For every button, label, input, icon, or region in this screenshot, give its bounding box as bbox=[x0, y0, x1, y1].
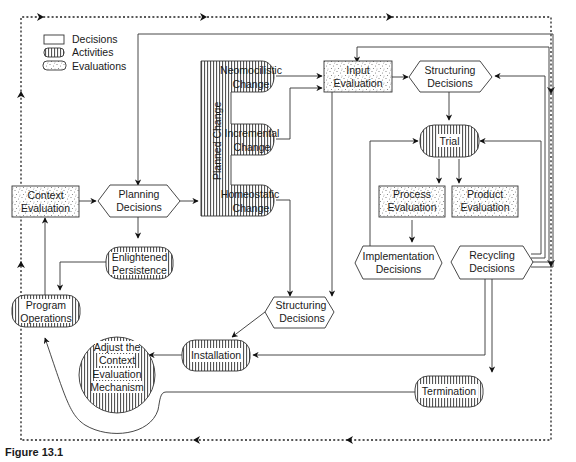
structuring-bottom-label-1: Structuring bbox=[276, 299, 327, 311]
node-structuring-decisions-top[interactable]: Structuring Decisions bbox=[409, 61, 492, 92]
loop-arrow-top-1 bbox=[37, 13, 44, 21]
incremental-label-1: Incremental bbox=[225, 127, 280, 139]
adjust-label-1: Adjust the bbox=[94, 341, 141, 353]
termination-label: Termination bbox=[422, 385, 476, 397]
context-evaluation-label-1: Context bbox=[27, 189, 63, 201]
planning-decisions-label-1: Planning bbox=[119, 188, 160, 200]
planned-change-label: Planned Change bbox=[211, 102, 223, 180]
node-program-operations[interactable]: Program Operations bbox=[12, 295, 80, 327]
loop-arrow-right-1 bbox=[547, 87, 555, 94]
program-operations-label-2: Operations bbox=[20, 312, 71, 324]
loop-arrow-top-3 bbox=[386, 13, 393, 21]
legend-decisions-label: Decisions bbox=[72, 33, 118, 45]
recycling-label-1: Recycling bbox=[469, 249, 515, 261]
input-evaluation-label-1: Input bbox=[346, 64, 369, 76]
adjust-label-4: Mechanism bbox=[90, 381, 144, 393]
loop-arrow-left-1 bbox=[17, 91, 25, 98]
node-input-evaluation[interactable]: Input Evaluation bbox=[324, 61, 392, 92]
enlightened-label-2: Persistence bbox=[112, 264, 167, 276]
node-planning-decisions[interactable]: Planning Decisions bbox=[98, 185, 180, 217]
homeostatic-label-2: Change bbox=[233, 202, 270, 214]
node-enlightened-persistence[interactable]: Enlightened Persistence bbox=[106, 247, 173, 279]
planning-decisions-label-2: Decisions bbox=[116, 201, 162, 213]
structuring-top-label-1: Structuring bbox=[425, 64, 476, 76]
node-process-evaluation[interactable]: Process Evaluation bbox=[379, 186, 445, 217]
legend: Decisions Activities Evaluations bbox=[43, 33, 126, 72]
product-evaluation-label-2: Evaluation bbox=[460, 201, 509, 213]
implementation-label-1: Implementation bbox=[363, 250, 435, 262]
loop-arrow-top-2 bbox=[200, 13, 207, 21]
legend-activities-swatch bbox=[44, 48, 64, 57]
trial-label: Trial bbox=[439, 135, 459, 147]
enlightened-label-1: Enlightened bbox=[112, 251, 168, 263]
implementation-label-2: Decisions bbox=[376, 263, 422, 275]
input-evaluation-label-2: Evaluation bbox=[333, 77, 382, 89]
program-operations-label-1: Program bbox=[26, 299, 67, 311]
node-installation[interactable]: Installation bbox=[182, 340, 250, 371]
node-structuring-decisions-bottom[interactable]: Structuring Decisions bbox=[265, 297, 334, 328]
cipp-flow-diagram: Decisions Activities Evaluations bbox=[0, 0, 576, 462]
adjust-label-2: Context bbox=[99, 354, 135, 366]
legend-decisions-swatch bbox=[44, 35, 64, 44]
process-evaluation-label-2: Evaluation bbox=[387, 201, 436, 213]
node-trial[interactable]: Trial bbox=[420, 125, 479, 157]
product-evaluation-label-1: Product bbox=[467, 188, 503, 200]
node-product-evaluation[interactable]: Product Evaluation bbox=[452, 186, 518, 217]
node-adjust-mechanism[interactable]: Adjust the Context Evaluation Mechanism bbox=[79, 337, 155, 413]
figure-caption: Figure 13.1 bbox=[5, 446, 63, 458]
incremental-label-2: Change bbox=[234, 141, 271, 153]
node-context-evaluation[interactable]: Context Evaluation bbox=[12, 186, 79, 217]
recycling-label-2: Decisions bbox=[469, 262, 515, 274]
legend-evaluations-swatch bbox=[43, 61, 66, 70]
node-recycling-decisions[interactable]: Recycling Decisions bbox=[451, 246, 533, 279]
installation-label: Installation bbox=[191, 349, 241, 361]
context-evaluation-label-2: Evaluation bbox=[21, 202, 70, 214]
structuring-top-label-2: Decisions bbox=[427, 77, 473, 89]
structuring-bottom-label-2: Decisions bbox=[279, 312, 325, 324]
adjust-label-3: Evaluation bbox=[92, 368, 141, 380]
neomocilistic-label-1: Neomocilistic bbox=[220, 64, 282, 76]
legend-evaluations-label: Evaluations bbox=[72, 60, 126, 72]
neomocilistic-label-2: Change bbox=[233, 78, 270, 90]
homeostatic-label-1: Homeostatic bbox=[221, 188, 279, 200]
process-evaluation-label-1: Process bbox=[393, 188, 431, 200]
legend-activities-label: Activities bbox=[72, 46, 113, 58]
node-termination[interactable]: Termination bbox=[415, 376, 483, 407]
node-implementation-decisions[interactable]: Implementation Decisions bbox=[355, 246, 442, 279]
